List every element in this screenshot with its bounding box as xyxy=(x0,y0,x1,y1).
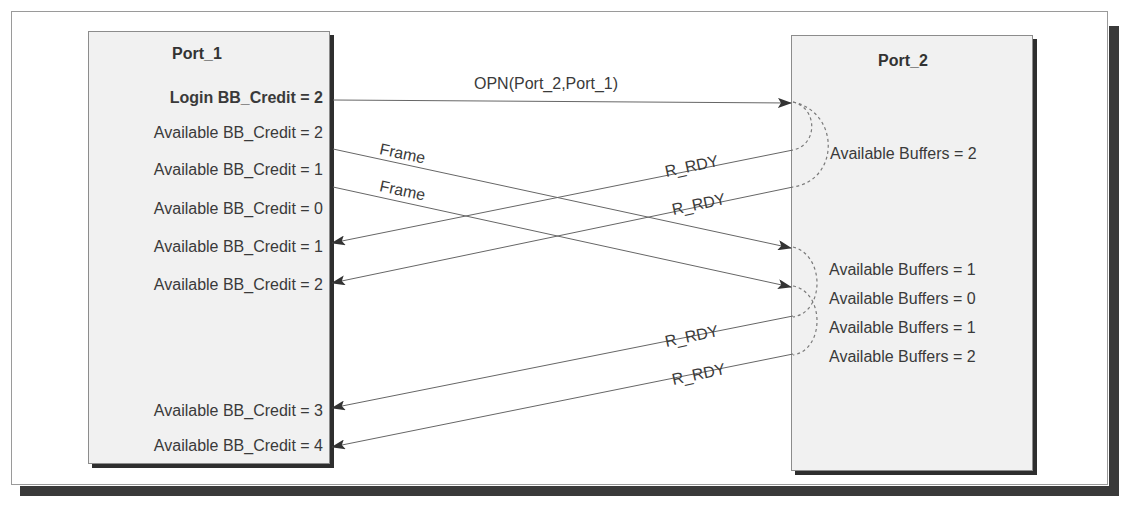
buffer-label: Available Buffers = 1 xyxy=(829,319,976,337)
buffer-label: Available Buffers = 1 xyxy=(829,261,976,279)
credit-label: Available BB_Credit = 1 xyxy=(92,238,323,256)
credit-label: Available BB_Credit = 4 xyxy=(92,437,323,455)
port-2-title: Port_2 xyxy=(878,52,928,70)
buffer-label: Available Buffers = 2 xyxy=(829,348,976,366)
port-1-title: Port_1 xyxy=(172,45,222,63)
port-2-box xyxy=(791,35,1033,471)
buffer-label: Available Buffers = 2 xyxy=(830,145,977,163)
credit-label: Available BB_Credit = 1 xyxy=(92,161,323,179)
frame-shadow-right xyxy=(1109,26,1119,496)
frame-shadow-bottom xyxy=(20,486,1119,496)
credit-label: Available BB_Credit = 2 xyxy=(92,124,323,142)
credit-label: Available BB_Credit = 2 xyxy=(92,276,323,294)
buffer-label: Available Buffers = 0 xyxy=(829,290,976,308)
login-bb-credit: Login BB_Credit = 2 xyxy=(96,89,323,107)
credit-label: Available BB_Credit = 3 xyxy=(92,402,323,420)
credit-label: Available BB_Credit = 0 xyxy=(92,200,323,218)
opn-label: OPN(Port_2,Port_1) xyxy=(474,75,618,93)
